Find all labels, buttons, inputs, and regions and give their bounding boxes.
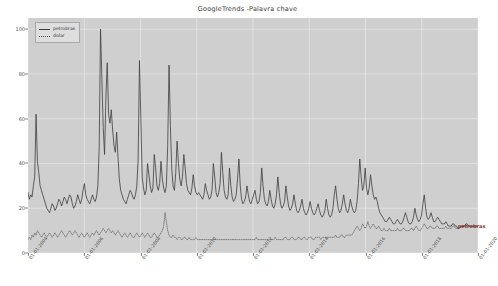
plot-area: 020406080100 01-01-200401-01-200601-01-2… — [28, 18, 478, 253]
legend-label-dolar: dolar — [53, 33, 65, 39]
legend-item-petrobras[interactable]: petrobras — [39, 26, 75, 32]
legend-swatch-dolar — [39, 36, 50, 37]
y-axis-tick-mark — [25, 29, 28, 30]
series-annotation-petrobras: petrobras — [458, 223, 486, 229]
y-axis-tick-mark — [25, 208, 28, 209]
legend-item-dolar[interactable]: dolar — [39, 33, 75, 39]
y-axis-tick-label: 100 — [15, 26, 25, 32]
plot-canvas — [28, 18, 478, 253]
x-axis-tick-label: 01-01-2020 — [478, 236, 498, 260]
chart-legend: petrobrasdolar — [35, 22, 80, 43]
y-axis-tick-mark — [25, 118, 28, 119]
legend-label-petrobras: petrobras — [53, 26, 75, 32]
chart-title: GoogleTrends -Palavra chave — [0, 5, 495, 13]
y-axis-tick-mark — [25, 73, 28, 74]
legend-swatch-petrobras — [39, 29, 50, 30]
y-axis-tick-mark — [25, 163, 28, 164]
